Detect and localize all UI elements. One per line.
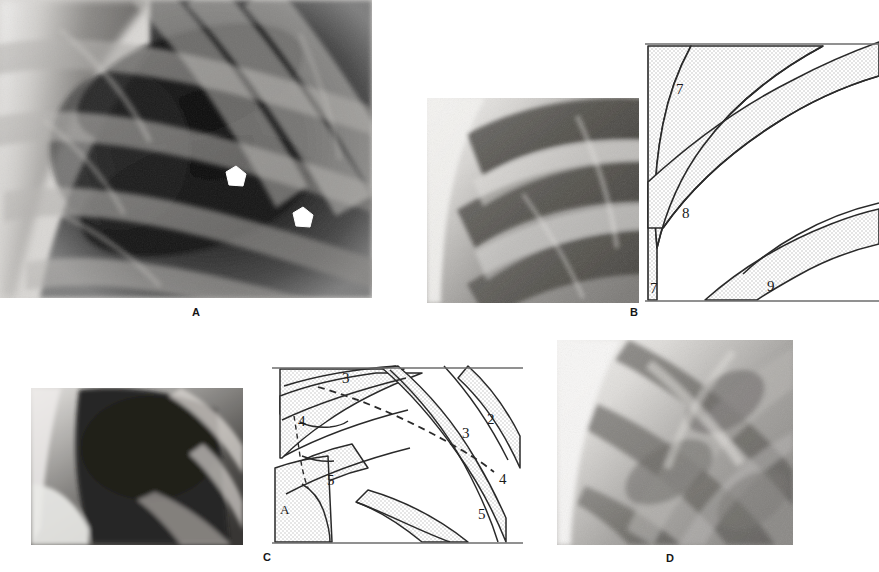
panel-a-radiograph bbox=[0, 0, 372, 298]
panel-c-label-a: A bbox=[280, 502, 290, 517]
panel-b-label-7-upper: 7 bbox=[676, 81, 684, 97]
panel-d-caption: D bbox=[666, 552, 674, 564]
panel-c-label-3-right: 3 bbox=[462, 425, 470, 441]
panel-c-label-2-right: 2 bbox=[487, 411, 495, 427]
panel-c-image bbox=[31, 388, 243, 545]
panel-a-caption: A bbox=[192, 306, 200, 318]
panel-d-image bbox=[557, 340, 793, 545]
panel-d-radiograph bbox=[557, 340, 793, 545]
panel-c-diagram: 3 4 5 A 2 3 4 5 bbox=[272, 364, 523, 545]
figure-root: A bbox=[0, 0, 879, 572]
panel-b-label-9: 9 bbox=[767, 278, 775, 294]
panel-c-radiograph bbox=[31, 388, 243, 545]
panel-b-caption: B bbox=[630, 306, 638, 318]
panel-b-diagram: 7 8 7 9 bbox=[645, 38, 879, 303]
panel-c-caption: C bbox=[263, 551, 271, 563]
panel-c-label-3-top: 3 bbox=[342, 370, 350, 386]
panel-b-label-7-lower: 7 bbox=[650, 280, 658, 296]
panel-c-label-4-right: 4 bbox=[499, 471, 507, 487]
panel-b-radiograph bbox=[427, 98, 639, 303]
panel-b-image bbox=[427, 98, 639, 303]
panel-c-diagram-drawing: 3 4 5 A 2 3 4 5 bbox=[272, 364, 523, 545]
panel-c-label-4-left: 4 bbox=[298, 413, 306, 429]
panel-b-label-8: 8 bbox=[682, 205, 690, 221]
panel-c-label-5-left: 5 bbox=[327, 472, 335, 488]
panel-c-label-5-right: 5 bbox=[478, 506, 486, 522]
panel-b-diagram-drawing: 7 8 7 9 bbox=[645, 38, 879, 303]
panel-a-image bbox=[0, 0, 372, 298]
